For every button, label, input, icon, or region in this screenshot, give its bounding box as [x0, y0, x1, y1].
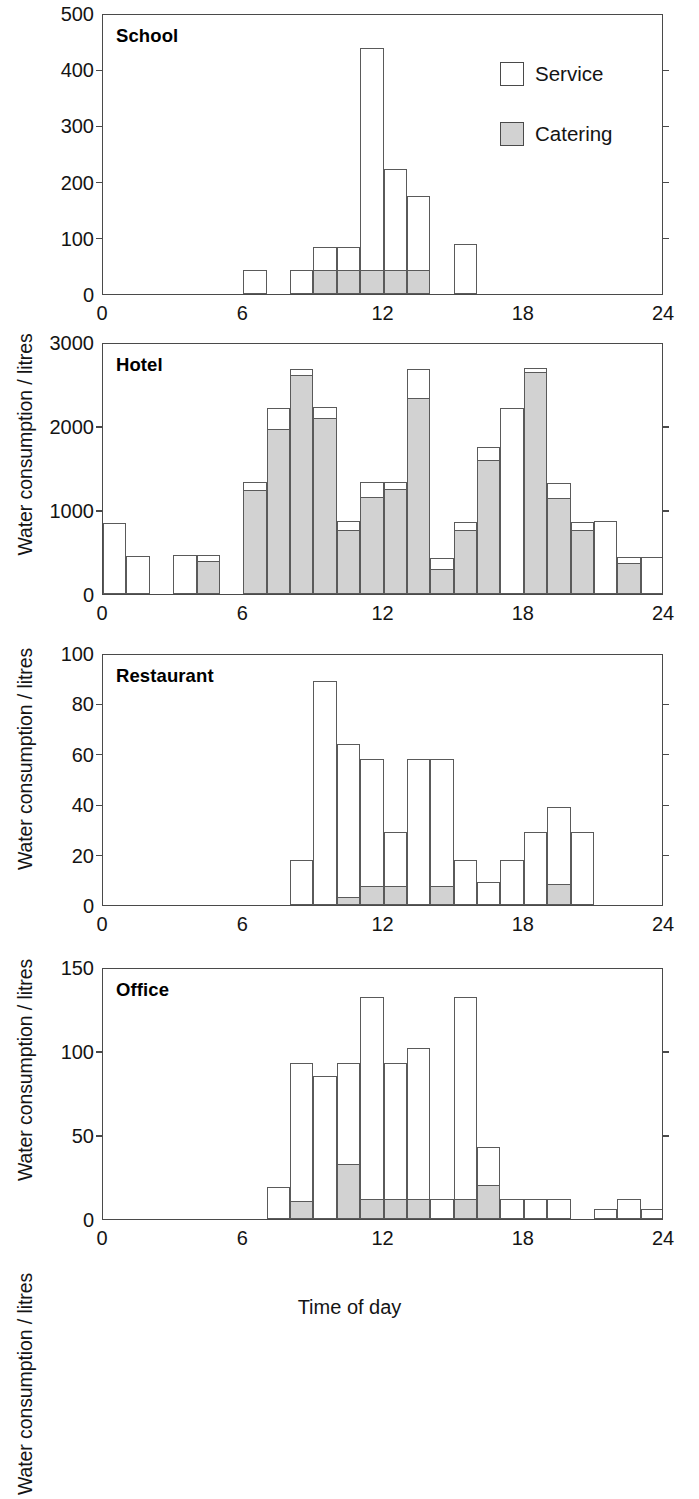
- panel-title: Hotel: [116, 354, 163, 376]
- y-tick-mark: [96, 1051, 103, 1052]
- bar-service: [454, 244, 477, 294]
- bar-catering: [454, 1199, 477, 1219]
- bar-catering: [313, 270, 336, 294]
- y-tick-mark-right: [662, 182, 669, 183]
- bar-service: [126, 556, 149, 594]
- bar-catering: [337, 530, 360, 594]
- bar-catering: [243, 490, 266, 594]
- y-tick-mark: [96, 238, 103, 239]
- x-tick-label: 24: [643, 914, 683, 934]
- y-tick-mark: [96, 1135, 103, 1136]
- bar-service: [500, 408, 523, 594]
- bar-service: [594, 1209, 617, 1219]
- x-tick-label: 12: [363, 914, 403, 934]
- y-tick-label: 1000: [16, 501, 94, 521]
- bar-catering: [430, 569, 453, 594]
- bar-service: [500, 860, 523, 905]
- x-tick-label: 6: [222, 914, 262, 934]
- x-tick-label: 6: [222, 303, 262, 323]
- y-tick-mark-right: [662, 805, 669, 806]
- x-axis-label: Time of day: [0, 1296, 699, 1319]
- bar-service: [360, 759, 383, 905]
- bar-catering: [384, 1199, 407, 1219]
- bar-service: [524, 832, 547, 905]
- y-tick-label: 60: [16, 745, 94, 765]
- bar-catering: [571, 530, 594, 594]
- y-tick-label: 150: [16, 958, 94, 978]
- y-tick-label: 50: [16, 1126, 94, 1146]
- y-tick-label: 0: [16, 896, 94, 916]
- bar-service: [360, 997, 383, 1219]
- y-tick-label: 3000: [16, 333, 94, 353]
- y-tick-mark-right: [662, 70, 669, 71]
- bar-catering: [267, 429, 290, 594]
- x-tick-label: 12: [363, 303, 403, 323]
- y-tick-label: 0: [16, 285, 94, 305]
- x-tick-label: 0: [82, 1228, 122, 1248]
- x-tick-label: 24: [643, 603, 683, 623]
- bar-service: [337, 744, 360, 905]
- y-tick-label: 200: [16, 173, 94, 193]
- y-axis-label: Water consumption / litres: [8, 1258, 42, 1499]
- bar-catering: [290, 1201, 313, 1219]
- plot-inner: [103, 344, 662, 594]
- bar-service: [313, 1076, 336, 1219]
- bar-service: [313, 681, 336, 905]
- plot-inner: [103, 655, 662, 905]
- bar-service: [267, 1187, 290, 1219]
- plot-inner: [103, 15, 662, 294]
- bar-service: [103, 523, 126, 594]
- bar-catering: [337, 897, 360, 905]
- bar-catering: [313, 418, 336, 594]
- bar-catering: [360, 886, 383, 905]
- bar-service: [290, 860, 313, 905]
- bar-service: [290, 270, 313, 294]
- y-tick-mark-right: [662, 1051, 669, 1052]
- bar-catering: [547, 884, 570, 905]
- plot-inner: [103, 969, 662, 1219]
- legend-item-catering: Catering: [500, 122, 613, 146]
- catering-swatch-icon: [500, 122, 524, 146]
- x-tick-label: 6: [222, 603, 262, 623]
- y-tick-label: 100: [16, 644, 94, 664]
- panel-title: School: [116, 25, 178, 47]
- bar-catering: [337, 1164, 360, 1219]
- bar-service: [454, 997, 477, 1219]
- x-tick-label: 6: [222, 1228, 262, 1248]
- y-tick-label: 80: [16, 694, 94, 714]
- bar-service: [290, 1063, 313, 1219]
- bar-service: [430, 759, 453, 905]
- y-tick-mark-right: [662, 754, 669, 755]
- service-swatch-icon: [500, 62, 524, 86]
- bar-catering: [407, 270, 430, 294]
- bar-service: [641, 1209, 662, 1219]
- y-axis-label: Water consumption / litres: [8, 944, 42, 1196]
- bar-catering: [454, 530, 477, 594]
- x-tick-label: 18: [503, 603, 543, 623]
- y-tick-mark: [96, 704, 103, 705]
- x-tick-label: 12: [363, 1228, 403, 1248]
- y-tick-label: 500: [16, 4, 94, 24]
- bar-catering: [197, 561, 220, 594]
- x-tick-label: 18: [503, 1228, 543, 1248]
- bar-catering: [290, 375, 313, 594]
- bar-service: [641, 557, 662, 594]
- bar-service: [617, 1199, 640, 1219]
- bar-service: [594, 521, 617, 594]
- y-tick-mark-right: [662, 126, 669, 127]
- y-tick-mark-right: [662, 510, 669, 511]
- y-tick-mark-right: [662, 704, 669, 705]
- plot-area-office: [102, 968, 663, 1220]
- plot-area-hotel: [102, 343, 663, 595]
- plot-area-school: [102, 14, 663, 295]
- bar-catering: [430, 886, 453, 905]
- legend-label: Catering: [535, 122, 613, 146]
- x-tick-label: 12: [363, 603, 403, 623]
- bar-service: [571, 832, 594, 905]
- bar-catering: [360, 497, 383, 594]
- y-tick-label: 100: [16, 1042, 94, 1062]
- y-tick-label: 300: [16, 116, 94, 136]
- bar-catering: [360, 270, 383, 294]
- bar-catering: [407, 398, 430, 594]
